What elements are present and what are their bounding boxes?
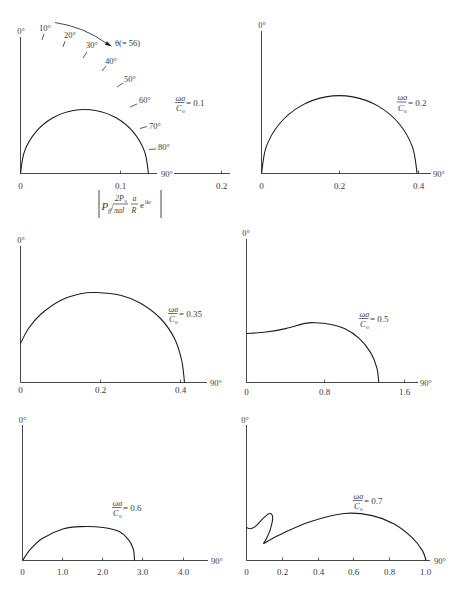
x-tick-label: 3.0 — [137, 567, 149, 577]
figure: 0° 90° 0 0.1 0.2 10° 20° 30° 40° 50° 60°… — [0, 0, 463, 592]
angle-label-0: 0° — [241, 415, 249, 425]
angle-label-0: 0° — [258, 20, 266, 30]
param-denominator-sub: o — [404, 108, 407, 114]
x-tick-label: 4.0 — [178, 567, 190, 577]
angle-label-0: 0° — [242, 228, 250, 238]
panel-6: 0° 90° 0 0.2 0.4 0.6 0.8 1.0 ωa C o = 0.… — [241, 415, 446, 577]
x-tick-label: 0 — [20, 567, 25, 577]
x-tick-label: 1.0 — [420, 567, 432, 577]
x-tick-label: 0 — [259, 181, 264, 191]
x-tick-label: 0.2 — [277, 567, 288, 577]
angle-label-30: 30° — [86, 40, 98, 50]
param-value: = 0.7 — [364, 496, 383, 506]
panel-4: 0° 90° 0 0.8 1.6 ωa C o = 0.5 — [242, 228, 432, 397]
angle-label-90: 90° — [434, 556, 446, 566]
angle-tick — [117, 83, 123, 87]
directivity-curve — [247, 513, 427, 560]
x-tick-label: 0.4 — [175, 385, 187, 395]
param-value: = 0.1 — [186, 98, 205, 108]
param-denominator-sub: o — [119, 513, 122, 519]
formula-e-sup: ikr — [145, 199, 151, 205]
angle-label-50: 50° — [124, 74, 136, 84]
x-tick-label: 0 — [18, 385, 23, 395]
angle-label-90: 90° — [433, 169, 445, 179]
angle-label-80: 80° — [158, 142, 170, 152]
angle-tick — [130, 104, 137, 107]
x-tick-label: 0.8 — [384, 567, 396, 577]
x-tick-label: 0 — [244, 387, 249, 397]
param-value: = 0.35 — [179, 309, 203, 319]
x-tick-label: 0 — [244, 567, 249, 577]
param-numerator: ωa — [354, 492, 364, 501]
param-value: = 0.5 — [370, 314, 389, 324]
x-tick-label: 0.2 — [334, 181, 345, 191]
angle-tick — [102, 66, 106, 71]
magnitude-axis-label: P ff / 2P 0 πal a R e ikr — [99, 190, 161, 218]
angle-label-90: 90° — [211, 556, 223, 566]
angle-label-90: 90° — [420, 378, 432, 388]
directivity-curve — [21, 110, 149, 174]
formula-R: R — [131, 206, 137, 215]
x-tick-label: 0.4 — [413, 181, 425, 191]
x-tick-label: 0.2 — [216, 181, 227, 191]
arrow-shaft — [55, 23, 106, 44]
param-denominator-sub: o — [360, 506, 363, 512]
panel-1: 0° 90° 0 0.1 0.2 10° 20° 30° 40° 50° 60°… — [17, 23, 230, 219]
angle-tick — [42, 34, 44, 40]
angle-label-20: 20° — [64, 30, 76, 40]
param-value: = 0.6 — [123, 503, 142, 513]
panel-3: 0° 90° 0 0.2 0.4 ωa C o = 0.35 — [17, 235, 222, 395]
formula-num-sub: 0 — [125, 199, 128, 204]
formula-num-2P: 2P — [115, 194, 124, 203]
arrow-head-icon — [105, 41, 112, 46]
angle-label-70: 70° — [149, 121, 161, 131]
x-tick-label: 0.6 — [348, 567, 360, 577]
angle-label-0: 0° — [19, 415, 27, 425]
theta-label: θ(= 56) — [115, 38, 140, 48]
formula-a: a — [133, 194, 137, 203]
angle-label-0: 0° — [17, 26, 25, 36]
param-numerator: ωa — [398, 93, 408, 102]
panel-2: 0° 90° 0 0.2 0.4 ωa C o = 0.2 — [258, 20, 445, 191]
param-label: ωa C o = 0.5 — [359, 310, 389, 331]
param-numerator: ωa — [360, 310, 370, 319]
formula-den: πal — [114, 206, 125, 215]
directivity-curve — [23, 527, 135, 561]
param-label: ωa C o = 0.1 — [175, 94, 205, 115]
x-tick-label: 1.6 — [399, 387, 411, 397]
angle-tick — [63, 41, 65, 47]
angle-label-0: 0° — [17, 235, 25, 245]
x-tick-label: 0.4 — [313, 567, 325, 577]
param-value: = 0.2 — [408, 98, 427, 108]
directivity-curve — [21, 292, 185, 382]
x-tick-label: 2.0 — [97, 567, 109, 577]
x-tick-label: 0.2 — [95, 385, 106, 395]
directivity-curve — [247, 323, 379, 383]
param-numerator: ωa — [169, 305, 179, 314]
x-tick-label: 0.1 — [115, 181, 126, 191]
param-label: ωa C o = 0.6 — [112, 499, 142, 520]
x-tick-label: 0 — [18, 181, 23, 191]
angle-label-40: 40° — [105, 56, 117, 66]
param-denominator-sub: o — [366, 324, 369, 330]
angle-tick — [149, 149, 156, 150]
directivity-curve — [262, 96, 418, 174]
angle-tick — [83, 52, 87, 58]
angle-label-60: 60° — [139, 95, 151, 105]
param-numerator: ωa — [113, 499, 123, 508]
formula-e: e — [140, 200, 144, 210]
x-tick-label: 1.0 — [57, 567, 69, 577]
angle-label-90: 90° — [161, 169, 173, 179]
param-numerator: ωa — [176, 94, 186, 103]
x-tick-label: 0.8 — [319, 387, 331, 397]
angle-label-10: 10° — [39, 23, 51, 33]
param-denominator-sub: o — [175, 319, 178, 325]
param-label: ωa C o = 0.2 — [397, 93, 427, 114]
param-denominator-sub: o — [182, 108, 185, 114]
angle-tick — [140, 127, 147, 129]
panel-5: 0° 90° 0 1.0 2.0 3.0 4.0 ωa C o = 0.6 — [19, 415, 223, 577]
angle-label-90: 90° — [210, 378, 222, 388]
param-label: ωa C o = 0.35 — [168, 305, 203, 326]
param-label: ωa C o = 0.7 — [353, 492, 383, 513]
